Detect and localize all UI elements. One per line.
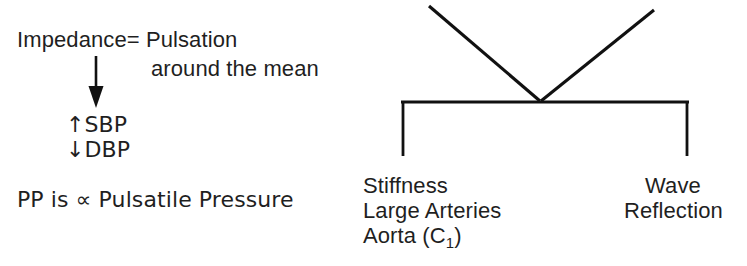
- bracket-connector-icon: [401, 101, 689, 156]
- v-converging-lines-icon: [429, 6, 654, 101]
- dbp-decrease-line: ↓DBP: [66, 137, 130, 162]
- large-arteries-label: Large Arteries: [363, 198, 501, 224]
- impedance-definition-line: Impedance= Pulsation: [17, 27, 237, 53]
- wave-label: Wave: [645, 173, 701, 199]
- reflection-label: Reflection: [624, 198, 723, 224]
- diagram-canvas: Impedance= Pulsation around the mean ↑SB…: [0, 0, 747, 266]
- aorta-label-prefix: Aorta (C: [363, 223, 446, 248]
- pulse-pressure-line: PP is ∝ Pulsatile Pressure: [17, 187, 294, 213]
- around-the-mean-line: around the mean: [151, 56, 319, 82]
- aorta-label-subscript: 1: [446, 234, 454, 251]
- aorta-compliance-label: Aorta (C1): [363, 223, 462, 249]
- down-arrow-icon: [89, 56, 104, 108]
- stiffness-label: Stiffness: [363, 173, 448, 199]
- sbp-increase-line: ↑SBP: [66, 112, 127, 137]
- aorta-label-suffix: ): [454, 223, 461, 248]
